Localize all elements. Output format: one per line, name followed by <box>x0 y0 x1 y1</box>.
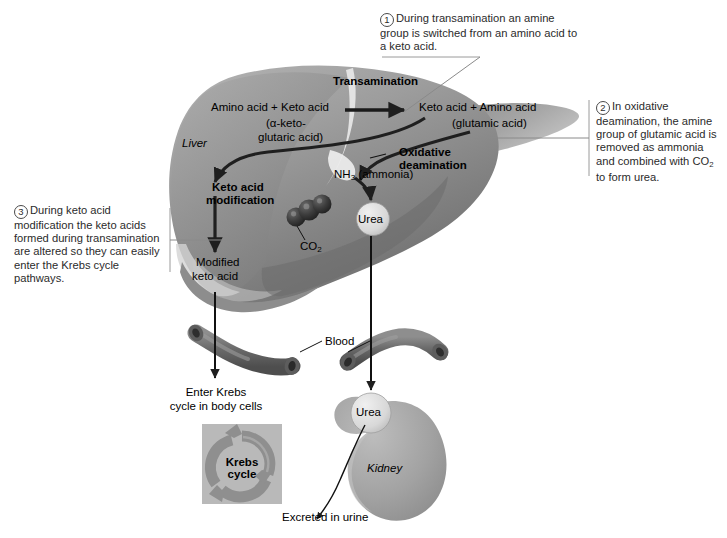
label-products: Keto acid + Amino acid <box>419 101 536 113</box>
label-liver: Liver <box>182 137 207 149</box>
label-keto-acid-modification-line2: modification <box>206 194 274 206</box>
callout-1-text: During transamination an amine group is … <box>380 12 577 52</box>
label-enter-krebs-line1: Enter Krebs <box>170 386 262 398</box>
callout-1-number: 1 <box>380 13 394 27</box>
label-modified-keto-acid-line1: Modified <box>196 256 239 268</box>
label-modified-keto-acid-line2: keto acid <box>192 270 238 282</box>
co2-formula: CO <box>300 240 317 252</box>
label-krebs-cycle-line1: Krebs <box>212 456 272 469</box>
label-co2: CO2 <box>300 240 322 254</box>
callout-2-number: 2 <box>596 101 610 115</box>
label-product-sub: (glutamic acid) <box>452 117 527 129</box>
label-kidney: Kidney <box>367 462 402 474</box>
blood-vessel-left <box>186 322 301 376</box>
label-oxidative-deamination-line1: Oxidative <box>399 146 451 158</box>
label-blood: Blood <box>325 335 354 347</box>
callout-3: 3During keto acid modification the keto … <box>14 204 164 285</box>
label-excreted-in-urine: Excreted in urine <box>282 511 368 523</box>
label-urea-kidney: Urea <box>356 406 381 418</box>
callout-2-text-b: to form urea. <box>596 171 659 183</box>
ammonia-formula: NH <box>334 168 351 180</box>
label-urea-liver: Urea <box>358 213 383 225</box>
callout-1: 1During transamination an amine group is… <box>380 12 580 53</box>
kidney-organ <box>317 393 447 521</box>
callout-3-text: During keto acid modification the keto a… <box>14 204 160 284</box>
label-reactant-sub-1: (α-keto- <box>266 117 306 129</box>
label-ammonia: NH3 (ammonia) <box>334 168 413 182</box>
callout-2-text-a: In oxidative deamination, the amine grou… <box>596 100 717 167</box>
co2-subscript: 2 <box>317 245 321 254</box>
label-keto-acid-modification-line1: Keto acid <box>212 181 264 193</box>
callout-3-number: 3 <box>14 205 28 219</box>
label-transamination: Transamination <box>333 75 418 87</box>
callout-2-subscript: 2 <box>709 160 713 169</box>
label-enter-krebs-line2: cycle in body cells <box>159 400 273 412</box>
callout-2: 2In oxidative deamination, the amine gro… <box>596 100 722 184</box>
ammonia-name: (ammonia) <box>355 168 413 180</box>
label-krebs-cycle-line2: cycle <box>212 468 272 481</box>
figure-canvas: 1During transamination an amine group is… <box>0 0 727 538</box>
label-reactants: Amino acid + Keto acid <box>211 101 329 113</box>
label-reactant-sub-2: glutaric acid) <box>258 131 323 143</box>
